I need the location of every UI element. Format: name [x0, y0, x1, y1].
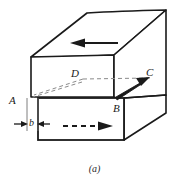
dimension-arrow-left — [14, 121, 28, 127]
vertex-label-a: A — [9, 95, 16, 106]
lower-front-face — [38, 98, 124, 140]
vertex-label-d: D — [71, 68, 79, 79]
shear-offset-label: b — [29, 118, 34, 128]
figure-caption: (a) — [0, 163, 189, 174]
block-diagram-svg — [0, 0, 189, 190]
shear-deformation-figure: A B C D b (a) — [0, 0, 189, 190]
lower-right-face — [124, 95, 166, 140]
vertex-label-b: B — [113, 103, 120, 114]
vertex-label-c: C — [146, 67, 153, 78]
